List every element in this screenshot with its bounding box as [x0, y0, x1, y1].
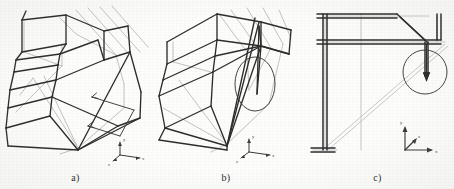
axis-arrowhead-z-c	[412, 138, 417, 144]
axis-arrowhead-x-b	[266, 154, 270, 158]
axis-triad-c: y x z	[400, 120, 438, 154]
axis-label-x-c: x	[435, 149, 438, 154]
deformed-frame-c	[311, 14, 441, 152]
axis-arrowhead-x-a	[136, 157, 140, 161]
axis-arrowhead-y-b	[247, 139, 251, 143]
panel-c-drawing: y x z	[301, 0, 454, 189]
axis-label-z-b: z	[236, 159, 238, 164]
axis-triad-a: y x z	[108, 137, 145, 167]
axis-arrowhead-y-c	[403, 126, 408, 132]
arrowhead-displacement-c	[423, 72, 430, 82]
axis-label-x-b: x	[272, 153, 275, 158]
panel-a: y x z a)	[0, 0, 151, 189]
panel-c-caption: c)	[301, 172, 454, 183]
panel-c: y x z c)	[301, 0, 454, 189]
panel-a-caption: a)	[0, 172, 151, 183]
axis-label-z-c: z	[418, 134, 421, 139]
panel-b-drawing: y x z	[151, 0, 301, 189]
undeformed-wireframe-c	[313, 14, 448, 150]
axis-arrowhead-x-c	[427, 148, 433, 153]
deformed-frame-b	[159, 14, 291, 150]
axis-label-y-a: y	[123, 137, 126, 142]
panel-b-caption: b)	[151, 172, 301, 183]
axis-label-x-a: x	[142, 156, 145, 161]
panel-b: y x z b)	[151, 0, 301, 189]
axis-arrowhead-y-a	[118, 142, 122, 146]
axis-triad-b: y x z	[236, 134, 275, 164]
axis-label-y-b: y	[252, 134, 255, 139]
undeformed-wireframe-b	[163, 8, 291, 152]
panel-a-drawing: y x z	[0, 0, 151, 189]
axis-label-y-c: y	[400, 120, 403, 125]
figure-container: y x z a)	[0, 0, 454, 189]
axis-label-z-a: z	[108, 162, 110, 167]
